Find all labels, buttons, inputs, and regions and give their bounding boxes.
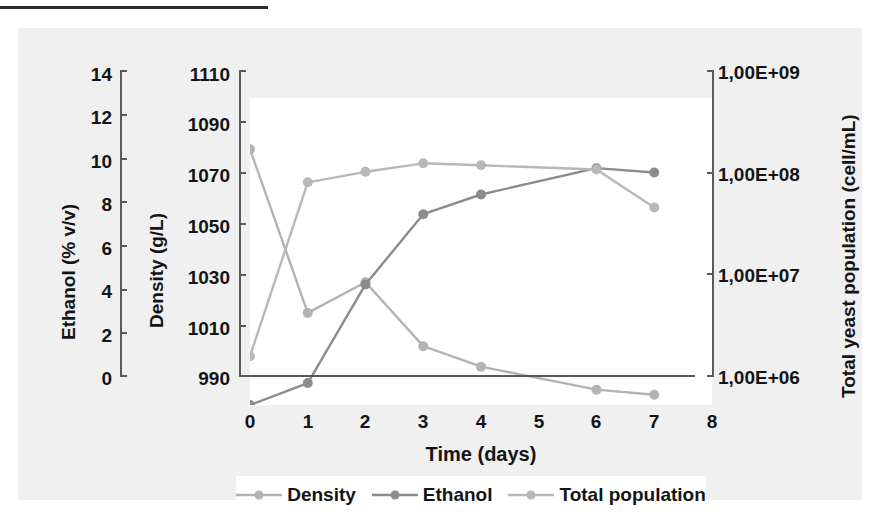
population-tickmark-1e7 (707, 273, 714, 275)
data-point[interactable] (418, 341, 428, 351)
density-tickmark-1110 (239, 70, 246, 72)
density-tickmark-1090 (239, 121, 246, 123)
header-rule (0, 6, 268, 9)
population-axis-title: Total yeast population (cell/mL) (838, 114, 860, 398)
ethanol-tick-4: 4 (74, 282, 112, 301)
x-tick-4: 4 (476, 411, 487, 433)
population-axis-spine (712, 70, 714, 377)
x-tick-6: 6 (591, 411, 602, 433)
ethanol-tickmark-14 (120, 70, 127, 72)
density-tickmark-1070 (239, 172, 246, 174)
data-point[interactable] (476, 362, 486, 372)
x-axis-title: Time (days) (250, 443, 712, 466)
x-tick-5: 5 (534, 411, 545, 433)
population-tick-1e7: 1,00E+07 (718, 266, 800, 285)
density-tick-1010: 1010 (158, 319, 230, 338)
ethanol-tick-8: 8 (74, 195, 112, 214)
ethanol-tickmark-2 (120, 332, 127, 334)
data-point[interactable] (303, 308, 313, 318)
legend-label-total-population: Total population (559, 484, 705, 506)
data-point[interactable] (592, 165, 602, 175)
x-tick-8: 8 (707, 411, 718, 433)
population-tickmark-1e8 (707, 172, 714, 174)
x-tick-1: 1 (303, 411, 314, 433)
series-canvas (250, 98, 712, 405)
density-tickmark-1010 (239, 325, 246, 327)
legend: Density Ethanol Total population (236, 476, 706, 514)
data-point[interactable] (649, 203, 659, 213)
density-tick-1090: 1090 (158, 115, 230, 134)
density-tick-1030: 1030 (158, 268, 230, 287)
x-axis-spine (239, 375, 695, 377)
population-tickmark-1e6 (707, 375, 714, 377)
ethanol-tickmark-12 (120, 114, 127, 116)
legend-marker-total-population (508, 488, 554, 502)
legend-marker-density (236, 488, 282, 502)
data-point[interactable] (592, 385, 602, 395)
legend-item-density[interactable]: Density (236, 484, 356, 506)
data-point[interactable] (649, 168, 659, 178)
legend-label-density: Density (287, 484, 356, 506)
data-point[interactable] (250, 144, 255, 154)
ethanol-axis-spine (120, 70, 122, 377)
series-line-ethanol (250, 168, 654, 405)
ethanol-tick-14: 14 (74, 65, 112, 84)
population-tick-1e9: 1,00E+09 (718, 63, 800, 82)
x-tick-3: 3 (418, 411, 429, 433)
density-tick-1110: 1110 (158, 65, 230, 84)
density-tick-1070: 1070 (158, 166, 230, 185)
ethanol-tickmark-6 (120, 245, 127, 247)
ethanol-axis-title: Ethanol (% v/v) (58, 204, 80, 340)
data-point[interactable] (476, 189, 486, 199)
ethanol-tickmark-0 (120, 375, 127, 377)
ethanol-tick-6: 6 (74, 239, 112, 258)
data-point[interactable] (418, 158, 428, 168)
legend-item-total-population[interactable]: Total population (508, 484, 705, 506)
ethanol-tickmark-8 (120, 201, 127, 203)
data-point[interactable] (418, 209, 428, 219)
figure-panel: Ethanol (% v/v) 14 12 10 8 6 4 2 0 Densi… (18, 28, 862, 500)
data-point[interactable] (649, 390, 659, 400)
density-tick-990: 990 (158, 369, 230, 388)
ethanol-tick-2: 2 (74, 326, 112, 345)
x-tick-2: 2 (360, 411, 371, 433)
legend-label-ethanol: Ethanol (423, 484, 493, 506)
data-point[interactable] (250, 400, 255, 405)
series-line-total-population (250, 163, 654, 356)
data-point[interactable] (476, 160, 486, 170)
population-tick-1e8: 1,00E+08 (718, 165, 800, 184)
density-tickmark-1050 (239, 223, 246, 225)
plot-area (250, 98, 712, 405)
ethanol-tickmark-4 (120, 289, 127, 291)
data-point[interactable] (303, 378, 313, 388)
data-point[interactable] (361, 279, 371, 289)
data-point[interactable] (303, 177, 313, 187)
density-tickmark-1030 (239, 274, 246, 276)
ethanol-tick-0: 0 (74, 369, 112, 388)
ethanol-tick-10: 10 (74, 152, 112, 171)
ethanol-tickmark-10 (120, 158, 127, 160)
legend-item-ethanol[interactable]: Ethanol (372, 484, 493, 506)
population-tick-1e6: 1,00E+06 (718, 368, 800, 387)
x-tick-7: 7 (649, 411, 660, 433)
population-tickmark-1e9 (707, 70, 714, 72)
data-point[interactable] (361, 167, 371, 177)
density-tick-1050: 1050 (158, 217, 230, 236)
legend-marker-ethanol (372, 488, 418, 502)
ethanol-tick-12: 12 (74, 108, 112, 127)
data-point[interactable] (250, 351, 255, 361)
x-tick-0: 0 (245, 411, 256, 433)
